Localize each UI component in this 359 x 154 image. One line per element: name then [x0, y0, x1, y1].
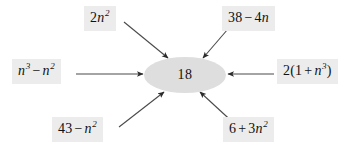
- term-left-expression: n3−n2: [18, 64, 55, 78]
- term-bottom-right-expression: 6+3n2: [229, 122, 268, 136]
- right-operand-coefficient: 3: [248, 121, 255, 136]
- term-top-right: 38−4n: [222, 6, 275, 31]
- left-variable: n: [18, 63, 25, 78]
- concept-map-figure: 18 2n2 38−4n n3−n2 2(1+n3) 43−n2 6+3n2: [0, 0, 359, 154]
- arrow-bottom-left: [119, 92, 164, 127]
- term-bottom-left-expression: 43−n2: [58, 122, 97, 136]
- right-exponent: 2: [50, 61, 55, 71]
- right-variable: n: [43, 63, 50, 78]
- term-bottom-right: 6+3n2: [223, 117, 274, 142]
- term-left: n3−n2: [12, 59, 61, 84]
- operator: −: [30, 63, 42, 78]
- term-top-right-expression: 38−4n: [228, 11, 269, 25]
- operator: +: [302, 63, 314, 78]
- arrow-top-left: [124, 22, 168, 58]
- center-node-value: 18: [178, 67, 193, 83]
- exponent: 2: [105, 8, 110, 18]
- term-top-left-expression: 2n2: [90, 11, 110, 25]
- paren-close: ): [327, 63, 332, 78]
- center-node: 18: [144, 57, 226, 93]
- operator: −: [242, 10, 254, 25]
- variable: n: [97, 10, 104, 25]
- operator: +: [236, 121, 248, 136]
- right-operand-coefficient: 4: [255, 10, 262, 25]
- right-exponent: 2: [92, 119, 97, 129]
- left-operand: 43: [58, 121, 72, 136]
- right-operand-exponent: 2: [263, 119, 268, 129]
- term-right-expression: 2(1+n3): [283, 64, 332, 78]
- right-operand-variable: n: [256, 121, 263, 136]
- term-right: 2(1+n3): [277, 59, 338, 84]
- term-bottom-left: 43−n2: [52, 117, 103, 142]
- term-top-left: 2n2: [84, 6, 116, 31]
- right-operand-variable: n: [262, 10, 269, 25]
- operator: −: [72, 121, 84, 136]
- left-operand: 38: [228, 10, 242, 25]
- right-variable: n: [85, 121, 92, 136]
- inner-variable: n: [314, 63, 321, 78]
